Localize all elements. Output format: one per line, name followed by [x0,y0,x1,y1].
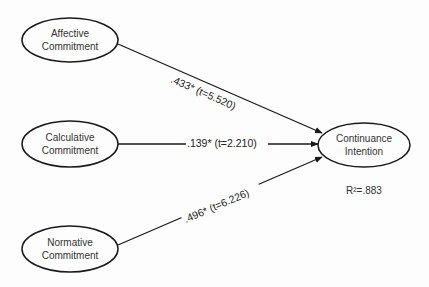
svg-text:Commitment: Commitment [42,145,99,156]
edge-label-calculative: .139* (t=2.210) [186,137,268,150]
svg-text:Commitment: Commitment [42,41,99,52]
svg-text:Continuance: Continuance [336,133,393,144]
svg-text:Commitment: Commitment [42,250,99,261]
node-calculative-commitment: Calculative Commitment [22,121,118,167]
svg-text:.139* (t=2.210): .139* (t=2.210) [187,137,257,149]
svg-text:Affective: Affective [51,28,90,39]
edge-label-affective: .433* (t=5.520) [167,72,249,118]
svg-text:Normative: Normative [47,237,93,248]
node-affective-commitment: Affective Commitment [22,18,118,62]
r-squared-label: R²=.883 [346,185,382,196]
node-normative-commitment: Normative Commitment [22,226,118,272]
svg-text:Calculative: Calculative [46,132,95,143]
svg-text:.496* (t=6.226): .496* (t=6.226) [182,186,251,225]
svg-text:Intention: Intention [345,146,383,157]
edge-label-normative: .496* (t=6.226) [180,181,262,226]
node-continuance-intention: Continuance Intention [318,123,410,167]
edge-affective-to-continuance [118,44,322,133]
path-diagram: .433* (t=5.520) .139* (t=2.210) .496* (t… [0,0,429,287]
